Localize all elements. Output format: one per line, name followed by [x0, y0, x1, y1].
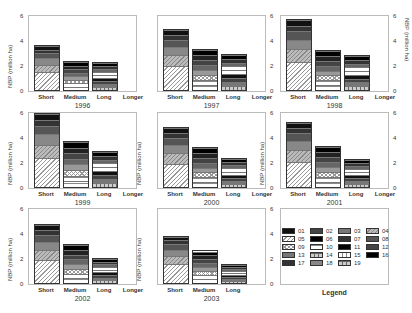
y-tick-label: 2	[393, 160, 396, 166]
category-label: Short	[31, 191, 61, 197]
bar-segment	[222, 184, 246, 187]
bar-segment	[222, 281, 246, 283]
plot-area	[157, 208, 266, 285]
bar-long	[344, 55, 370, 91]
bar-segment	[35, 250, 59, 260]
category-label: Medium	[312, 94, 342, 100]
bar-segment	[193, 85, 217, 90]
category-label: Short	[160, 191, 190, 197]
bar-long	[92, 62, 118, 91]
category-label: Long	[218, 287, 248, 293]
y-axis-label: NBP (million ha)	[7, 115, 13, 185]
bar-short	[163, 127, 189, 188]
category-label: Short	[283, 94, 313, 100]
legend-item-13: 13	[282, 252, 305, 258]
bar-segment	[35, 145, 59, 158]
bar-segment	[35, 260, 59, 283]
plot-area	[28, 112, 137, 189]
panel-year-title: 2001	[280, 199, 389, 206]
bar-segment	[35, 235, 59, 242]
bar-segment	[287, 62, 311, 90]
y-tick-label: 6	[20, 13, 23, 19]
bar-segment	[164, 264, 188, 283]
legend-item-19: 19	[338, 260, 361, 266]
legend-swatch	[366, 244, 379, 250]
bar-segment	[287, 141, 311, 150]
category-label: Longer	[370, 94, 400, 100]
bar-long	[92, 258, 118, 284]
category-label: Longer	[118, 94, 148, 100]
legend-swatch	[310, 244, 323, 250]
bar-segment	[164, 138, 188, 145]
panel-year-title: 2000	[157, 199, 266, 206]
y-tick-label: 2	[20, 160, 23, 166]
y-tick-label: 0	[20, 88, 23, 94]
category-label: Medium	[60, 191, 90, 197]
y-tick-label: 0	[20, 185, 23, 191]
plot-area	[157, 112, 266, 189]
y-axis-label: NBP (million ha)	[7, 18, 13, 88]
bar-segment	[164, 66, 188, 90]
category-label: Longer	[247, 94, 277, 100]
legend-item-label: 19	[354, 260, 361, 266]
y-tick-label: 0	[270, 185, 273, 191]
legend-item-label: 12	[382, 244, 389, 250]
legend-swatch	[282, 244, 295, 250]
legend-item-18: 18	[310, 260, 333, 266]
legend-item-label: 07	[354, 236, 361, 242]
legend-swatch	[282, 252, 295, 258]
bar-long	[221, 158, 247, 188]
y-tick-label: 2	[20, 256, 23, 262]
y-tick-label: 6	[270, 13, 273, 19]
legend-swatch	[310, 228, 323, 234]
panel-year-title: 1998	[280, 102, 389, 109]
bar-medium	[315, 50, 341, 91]
legend-item-label: 13	[298, 252, 305, 258]
legend-swatch	[366, 252, 379, 258]
bar-segment	[164, 153, 188, 164]
y-tick-label: 0	[393, 185, 396, 191]
legend-item-16: 16	[366, 252, 389, 258]
legend-item-01: 01	[282, 228, 305, 234]
y-tick-label: 0	[270, 281, 273, 287]
category-label: Long	[218, 191, 248, 197]
legend-title: Legend	[322, 289, 347, 296]
category-label: Medium	[189, 287, 219, 293]
bar-short	[34, 45, 60, 91]
legend-item-09: 09	[282, 244, 305, 250]
bar-short	[286, 122, 312, 188]
y-tick-label: 6	[393, 13, 396, 19]
bar-long	[221, 264, 247, 284]
panel-year-title: 1996	[28, 102, 137, 109]
legend-item-11: 11	[338, 244, 360, 250]
y-tick-label: 0	[20, 281, 23, 287]
bar-segment	[316, 85, 340, 90]
legend-item-15: 15	[338, 252, 361, 258]
category-label: Short	[283, 191, 313, 197]
bar-segment	[287, 162, 311, 187]
legend-item-label: 08	[382, 236, 389, 242]
bar-short	[286, 19, 312, 91]
bar-segment	[222, 86, 246, 90]
category-label: Longer	[370, 191, 400, 197]
bar-segment	[316, 182, 340, 187]
bar-medium	[315, 146, 341, 188]
y-tick-label: 2	[20, 63, 23, 69]
panel-year-title: 2003	[157, 295, 266, 302]
plot-area	[280, 15, 389, 92]
legend-item-label: 02	[326, 228, 333, 234]
y-tick-label: 6	[270, 206, 273, 212]
bar-long	[344, 159, 370, 188]
legend-swatch	[282, 236, 295, 242]
y-axis-label: NBP (million ha)	[136, 211, 142, 281]
legend-item-label: 05	[298, 236, 305, 242]
legend-swatch	[310, 252, 323, 258]
bar-segment	[345, 86, 369, 90]
bar-segment	[164, 164, 188, 187]
y-tick-label: 2	[270, 63, 273, 69]
bar-segment	[287, 40, 311, 50]
bar-segment	[93, 280, 117, 283]
bar-segment	[193, 279, 217, 283]
legend-item-03: 03	[338, 228, 361, 234]
category-label: Long	[341, 94, 371, 100]
